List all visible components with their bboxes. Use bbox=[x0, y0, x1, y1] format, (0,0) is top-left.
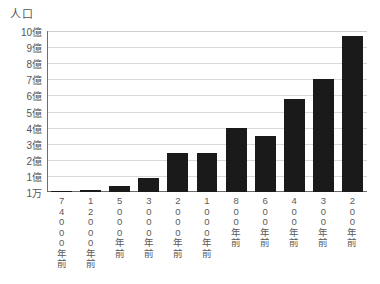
x-tick-char: 年 bbox=[105, 238, 134, 249]
bar bbox=[109, 186, 130, 192]
y-tick-label: 5億 bbox=[26, 104, 42, 119]
bar bbox=[138, 178, 159, 192]
y-tick-label: 1万 bbox=[26, 185, 42, 200]
x-tick-char: 6 bbox=[251, 196, 280, 207]
x-tick-char: 前 bbox=[76, 259, 105, 270]
y-tick-label: 1億 bbox=[26, 168, 42, 183]
x-tick-label: 400年前 bbox=[280, 196, 309, 249]
y-tick-label: 8億 bbox=[26, 56, 42, 71]
x-tick-char: 前 bbox=[134, 249, 163, 260]
x-tick-label: 74000年前 bbox=[47, 196, 76, 270]
x-tick-char: 前 bbox=[280, 238, 309, 249]
x-tick-label: 12000年前 bbox=[76, 196, 105, 270]
bar bbox=[51, 191, 72, 192]
x-tick-label: 2000年前 bbox=[163, 196, 192, 259]
x-tick-char: 前 bbox=[105, 249, 134, 260]
x-tick-char: 2 bbox=[338, 196, 367, 207]
x-tick-char: 年 bbox=[134, 238, 163, 249]
x-tick-char: 0 bbox=[47, 217, 76, 228]
x-tick-char: 前 bbox=[47, 259, 76, 270]
x-tick-char: 0 bbox=[134, 217, 163, 228]
bar bbox=[313, 79, 334, 192]
x-tick-char: 3 bbox=[134, 196, 163, 207]
x-tick-label: 600年前 bbox=[251, 196, 280, 249]
x-tick-char: 前 bbox=[163, 249, 192, 260]
x-tick-char: 前 bbox=[222, 238, 251, 249]
y-tick-label: 3億 bbox=[26, 136, 42, 151]
x-tick-label: 3000年前 bbox=[134, 196, 163, 259]
y-tick-label: 7億 bbox=[26, 72, 42, 87]
bar bbox=[284, 99, 305, 192]
y-axis: 10億9億8億7億6億5億4億3億2億1億1万 bbox=[0, 0, 47, 284]
x-tick-char: 1 bbox=[192, 196, 221, 207]
x-tick-char: 0 bbox=[76, 217, 105, 228]
x-tick-char: 0 bbox=[76, 238, 105, 249]
bar bbox=[197, 153, 218, 192]
x-tick-char: 0 bbox=[280, 217, 309, 228]
x-tick-char: 前 bbox=[338, 238, 367, 249]
y-tick-label: 2億 bbox=[26, 152, 42, 167]
x-tick-char: 7 bbox=[47, 196, 76, 207]
x-tick-label: 300年前 bbox=[309, 196, 338, 249]
x-tick-char: 0 bbox=[163, 217, 192, 228]
x-tick-char: 4 bbox=[280, 196, 309, 207]
x-tick-char: 0 bbox=[251, 217, 280, 228]
bar bbox=[226, 128, 247, 192]
x-tick-label: 800年前 bbox=[222, 196, 251, 249]
x-tick-label: 5000年前 bbox=[105, 196, 134, 259]
x-tick-char: 前 bbox=[251, 238, 280, 249]
y-tick-label: 4億 bbox=[26, 120, 42, 135]
bar bbox=[255, 136, 276, 192]
x-tick-char: 5 bbox=[105, 196, 134, 207]
x-tick-char: 0 bbox=[47, 238, 76, 249]
x-tick-label: 200年前 bbox=[338, 196, 367, 249]
x-tick-char: 前 bbox=[192, 249, 221, 260]
x-tick-char: 0 bbox=[222, 217, 251, 228]
bars-layer bbox=[47, 31, 367, 192]
y-tick-label: 10億 bbox=[21, 24, 42, 39]
x-tick-char: 3 bbox=[309, 196, 338, 207]
x-tick-label: 1000年前 bbox=[192, 196, 221, 259]
bar bbox=[342, 36, 363, 192]
y-tick-label: 6億 bbox=[26, 88, 42, 103]
bar bbox=[80, 190, 101, 192]
x-tick-char: 2 bbox=[163, 196, 192, 207]
x-tick-char: 0 bbox=[105, 217, 134, 228]
population-bar-chart: 人口 10億9億8億7億6億5億4億3億2億1億1万 74000年前12000年… bbox=[0, 0, 380, 284]
y-tick-label: 9億 bbox=[26, 40, 42, 55]
x-axis: 74000年前12000年前5000年前3000年前2000年前1000年前80… bbox=[47, 196, 367, 282]
x-tick-char: 0 bbox=[192, 217, 221, 228]
bar bbox=[167, 153, 188, 192]
x-tick-char: 年 bbox=[192, 238, 221, 249]
x-tick-char: 年 bbox=[163, 238, 192, 249]
x-tick-char: 0 bbox=[338, 217, 367, 228]
x-tick-char: 前 bbox=[309, 238, 338, 249]
x-tick-char: 8 bbox=[222, 196, 251, 207]
x-tick-char: 0 bbox=[309, 217, 338, 228]
x-tick-char: 1 bbox=[76, 196, 105, 207]
